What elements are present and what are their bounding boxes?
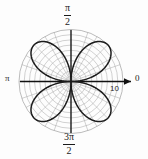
- theta-label-pi: π: [5, 74, 10, 83]
- theta-label-3pi-over-2: 3π 2: [63, 132, 75, 157]
- fraction-3pi-over-2: 3π 2: [63, 132, 75, 156]
- radial-tick-label-10: 10: [110, 85, 119, 93]
- theta-label-pi-over-2: π 2: [64, 3, 71, 28]
- polar-axis-arrow-icon: [124, 78, 131, 85]
- polar-graph-figure: π 2 3π 2 π 0 10: [0, 0, 148, 159]
- fraction-pi-over-2: π 2: [64, 3, 71, 27]
- fraction-numerator: 3π: [63, 132, 75, 143]
- fraction-denominator: 2: [63, 146, 75, 157]
- fraction-denominator: 2: [64, 17, 71, 28]
- theta-label-zero: 0: [135, 74, 140, 83]
- fraction-numerator: π: [64, 3, 71, 14]
